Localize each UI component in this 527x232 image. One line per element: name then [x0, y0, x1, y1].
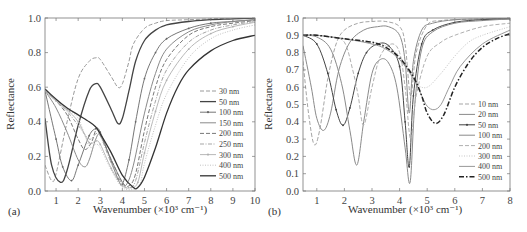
data-marker	[144, 78, 146, 80]
legend-label: 10 nm	[478, 100, 499, 109]
y-tick-label: 0.3	[286, 134, 299, 145]
data-marker	[77, 121, 79, 123]
legend-label: 300 nm	[478, 152, 503, 161]
x-tick-label: 2	[76, 195, 81, 206]
legend-label: 200 nm	[219, 129, 244, 138]
data-marker	[88, 142, 90, 144]
legend-label: 250 nm	[219, 140, 244, 149]
y-tick-label: 1.0	[286, 13, 299, 24]
y-tick-label: 0.0	[28, 186, 41, 197]
data-marker	[62, 166, 64, 168]
legend-b: 10 nm20 nm50 nm100 nm200 nm300 nm400 nm5…	[459, 100, 503, 182]
data-marker	[210, 22, 212, 24]
data-marker	[88, 135, 90, 137]
data-marker	[232, 26, 234, 28]
data-marker	[188, 27, 190, 29]
data-marker	[413, 95, 415, 97]
y-axis-title-a: Reflectance	[4, 78, 16, 130]
data-marker	[121, 185, 123, 187]
data-marker	[342, 124, 344, 126]
legend-label: 500 nm	[478, 173, 503, 182]
data-marker	[55, 138, 57, 140]
data-marker	[155, 52, 157, 54]
data-marker	[128, 159, 130, 161]
series-line-400-nm	[303, 30, 510, 110]
x-tick-label: 7	[480, 195, 485, 206]
data-marker	[349, 107, 351, 109]
data-marker	[71, 180, 73, 182]
chart-panel-b: 123456780.00.10.20.30.40.50.60.70.80.91.…	[262, 13, 513, 219]
legend-label: 30 nm	[219, 87, 240, 96]
data-marker	[188, 48, 190, 50]
data-marker	[166, 38, 168, 40]
panel-label-b: (b)	[268, 205, 281, 218]
y-tick-label: 0.8	[28, 47, 41, 58]
legend-label: 20 nm	[478, 110, 499, 119]
legend-label: 300 nm	[219, 151, 244, 160]
x-tick-label: 9	[230, 195, 235, 206]
legend-label: 100 nm	[219, 108, 244, 117]
data-marker	[335, 109, 337, 111]
chart-panel-a: 123456789100.00.20.40.60.81.0 30 nm50 nm…	[4, 13, 260, 219]
y-tick-label: 0.7	[286, 64, 299, 75]
y-tick-label: 0.6	[286, 82, 299, 93]
legend-label: 500 nm	[219, 172, 244, 181]
data-marker	[210, 33, 212, 35]
panel-label-a: (a)	[8, 205, 21, 218]
y-tick-label: 0.2	[28, 151, 41, 162]
data-marker	[155, 111, 157, 113]
x-axis-title-a: Wavenumber (×10³ cm⁻¹)	[93, 203, 208, 216]
data-marker	[404, 121, 406, 123]
legend-label: 400 nm	[478, 162, 503, 171]
legend-label: 400 nm	[219, 161, 244, 170]
data-marker	[366, 52, 368, 54]
y-tick-label: 1.0	[28, 13, 41, 24]
data-marker	[137, 181, 139, 183]
data-marker	[77, 164, 79, 166]
legend-a: 30 nm50 nm100 nm150 nm200 nm250 nm300 nm…	[200, 87, 244, 181]
y-tick-label: 0.1	[286, 168, 299, 179]
y-tick-label: 0.0	[286, 186, 299, 197]
data-marker	[399, 66, 401, 68]
y-tick-label: 0.4	[286, 116, 300, 127]
data-marker	[144, 152, 146, 154]
y-tick-label: 0.5	[286, 99, 299, 110]
x-axis-title-b: Wavenumber (×10³ cm⁻¹)	[348, 203, 463, 216]
x-tick-label: 1	[53, 195, 58, 206]
data-marker	[95, 140, 97, 142]
data-marker	[166, 79, 168, 81]
y-tick-label: 0.6	[28, 82, 41, 93]
y-tick-label: 0.4	[28, 116, 42, 127]
legend-label: 50 nm	[478, 121, 499, 130]
legend-label: 200 nm	[478, 142, 503, 151]
x-tick-label: 2	[342, 195, 347, 206]
y-axis-title-b: Reflectance	[262, 78, 274, 130]
legend-label: 150 nm	[219, 119, 244, 128]
data-marker	[99, 143, 101, 145]
x-tick-label: 8	[208, 195, 213, 206]
y-tick-label: 0.2	[286, 151, 299, 162]
data-marker	[408, 166, 410, 168]
data-marker	[135, 121, 137, 123]
data-marker	[316, 43, 318, 45]
y-tick-label: 0.9	[286, 30, 299, 41]
data-marker	[357, 72, 359, 74]
data-marker	[327, 72, 329, 74]
figure: 123456789100.00.20.40.60.81.0 30 nm50 nm…	[0, 0, 527, 232]
legend-label: 100 nm	[478, 131, 503, 140]
legend-label: 50 nm	[219, 98, 240, 107]
x-tick-label: 10	[250, 195, 261, 206]
x-tick-label: 1	[314, 195, 319, 206]
data-marker	[421, 43, 423, 45]
y-tick-label: 0.8	[286, 47, 299, 58]
x-tick-label: 8	[507, 195, 512, 206]
